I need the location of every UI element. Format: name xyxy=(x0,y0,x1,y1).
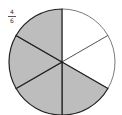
fraction-circle xyxy=(0,0,122,115)
